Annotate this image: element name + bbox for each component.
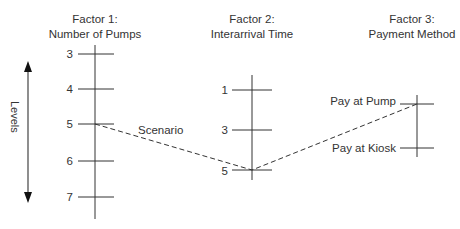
levels-label: Levels [9,100,21,134]
scenario-path [95,104,417,170]
factor2-level: 1 [195,84,228,97]
factor2-title: Factor 2: Interarrival Time [202,12,302,42]
factor1-level: 4 [40,83,73,96]
factor3-title: Factor 3: Payment Method [362,12,460,42]
levels-arrow [24,61,32,203]
factor1-level: 5 [40,118,73,131]
factor1-title: Factor 1: Number of Pumps [45,12,145,42]
factor1-axis [78,45,114,219]
factor1-level: 7 [40,191,73,204]
factor2-level: 5 [195,165,228,178]
factor3-level: Pay at Pump [300,95,396,108]
factor1-level: 3 [40,48,73,61]
factor1-level: 6 [40,155,73,168]
scenario-label: Scenario [138,124,183,137]
factor2-level: 3 [195,124,228,137]
factor3-level: Pay at Kiosk [300,142,396,155]
factor3-axis [400,95,434,157]
